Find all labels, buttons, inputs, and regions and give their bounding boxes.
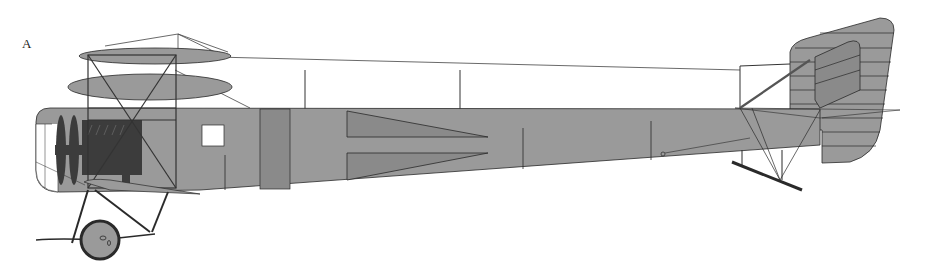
lower-wing <box>68 74 232 100</box>
biplane-drawing <box>0 0 950 268</box>
interplane-cabane <box>305 64 790 109</box>
wheel <box>81 221 119 259</box>
upper-wing <box>79 48 231 64</box>
fuselage-panel <box>260 109 290 189</box>
cockpit-window <box>202 125 224 146</box>
nose-frame <box>36 124 58 192</box>
